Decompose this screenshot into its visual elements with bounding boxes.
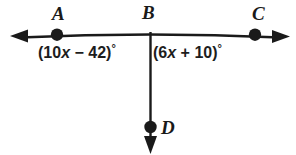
point-dot-a	[51, 29, 63, 41]
geometry-diagram: A B C D (10x − 42)° (6x + 10)°	[0, 0, 296, 155]
angle-abd-tail: − 42)	[70, 44, 111, 61]
point-label-d: D	[161, 118, 175, 137]
point-label-b: B	[142, 3, 155, 22]
arrowhead-right-icon	[272, 30, 290, 43]
angle-dbc-variable: x	[167, 44, 176, 61]
angle-label-dbc: (6x + 10)°	[153, 45, 222, 61]
angle-dbc-prefix: (6	[153, 44, 167, 61]
point-dot-d	[144, 121, 156, 133]
angle-abd-prefix: (10	[38, 44, 61, 61]
angle-dbc-tail: + 10)	[176, 44, 217, 61]
angle-abd-variable: x	[61, 44, 70, 61]
arrowhead-down-icon	[144, 136, 157, 154]
point-dot-c	[249, 29, 261, 41]
degree-symbol-icon: °	[218, 42, 222, 54]
arrowhead-left-icon	[10, 30, 28, 43]
degree-symbol-icon: °	[111, 42, 115, 54]
point-label-c: C	[252, 4, 265, 23]
point-label-a: A	[52, 4, 65, 23]
angle-label-abd: (10x − 42)°	[38, 45, 116, 61]
